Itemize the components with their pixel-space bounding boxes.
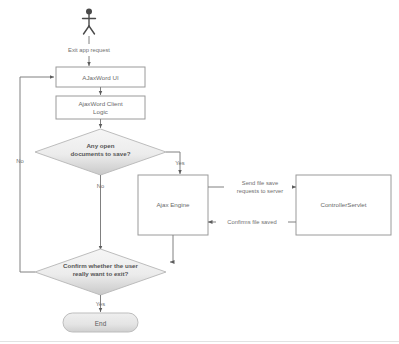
edge-label-no-save: No (97, 183, 104, 189)
node-ajaxword-ui[interactable]: AJaxWord UI (56, 67, 145, 87)
node-ajaxword-ui-label: AJaxWord UI (82, 74, 119, 81)
node-decision-any-open-documents[interactable]: Any open documents to save? (35, 129, 166, 175)
node-ajax-engine[interactable]: Ajax Engine (138, 175, 208, 235)
edge-label-yes-save: Yes (175, 160, 185, 166)
node-decision-confirm-exit[interactable]: Confirm whether the user really want to … (35, 249, 166, 295)
node-ajaxword-client-logic[interactable]: AjaxWord Client Logic (56, 96, 145, 119)
edge-label-send-file-save-line2: requests to server (237, 188, 283, 194)
node-ajax-engine-label: Ajax Engine (156, 201, 190, 208)
edge-label-confirms-file-saved: Confirms file saved (227, 219, 276, 225)
node-end-label: End (95, 320, 107, 327)
node-decision-save-label-line1: Any open (86, 142, 114, 149)
edge-decision-exit-no-to-ui (20, 77, 54, 272)
flowchart-canvas: Exit app request AJaxWord UI AjaxWord Cl… (0, 0, 399, 344)
edge-label-send-file-save-line1: Send file save (242, 180, 278, 186)
edge-label-no-exit: No (16, 158, 23, 164)
node-controller-servlet-label: ControllerServlet (320, 201, 366, 208)
node-end-terminator[interactable]: End (63, 313, 138, 332)
edge-label-yes-exit: Yes (96, 301, 106, 307)
node-decision-exit-label-line1: Confirm whether the user (63, 262, 139, 269)
node-decision-save-label-line2: documents to save? (71, 150, 131, 157)
node-decision-exit-label-line2: really want to exit? (73, 270, 129, 277)
edge-ajax-engine-to-decision-exit (170, 235, 173, 262)
flowchart-svg: Exit app request AJaxWord UI AjaxWord Cl… (0, 0, 399, 344)
node-client-logic-label-line2: Logic (93, 108, 108, 115)
node-controller-servlet[interactable]: ControllerServlet (296, 175, 391, 235)
node-client-logic-label-line1: AjaxWord Client (78, 100, 123, 107)
edge-label-exit-app-request: Exit app request (68, 47, 110, 53)
user-actor-icon (83, 9, 96, 35)
